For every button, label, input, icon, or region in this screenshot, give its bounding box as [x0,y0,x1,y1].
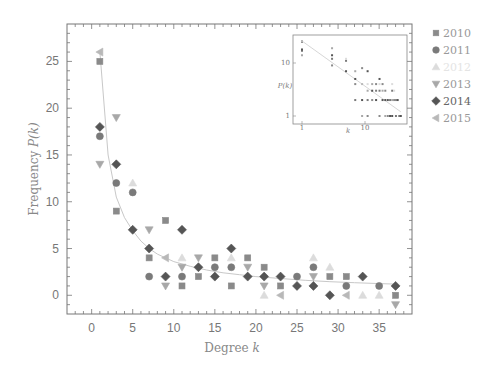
diamond-marker [391,281,400,290]
scatter-chart: 051015202530350510152025 201020112012201… [0,0,489,370]
circle-marker [228,264,235,271]
inset-point [382,90,384,92]
y-tick-label: 0 [52,288,59,302]
diamond-marker [194,263,203,272]
inset-point [379,115,381,117]
inset-x-label: k [346,127,350,135]
x-tick-label: 0 [88,321,95,335]
square-marker [261,264,267,270]
inset-point [384,115,386,117]
y-tick-label: 10 [46,195,60,209]
inset-point [367,90,369,92]
square-marker [278,283,284,289]
square-marker [195,274,201,280]
inset-point [395,115,397,117]
triangle-up-marker [359,291,367,298]
triangle-up-marker [375,291,383,298]
inset-ytick-1: 1 [286,112,290,120]
diamond-marker [309,281,318,290]
inset-point [367,83,369,85]
series-2012 [129,179,383,298]
inset-point [391,90,393,92]
inset-point [331,47,333,49]
inset-point [354,78,356,80]
x-tick-label: 30 [331,321,345,335]
square-marker [343,274,349,280]
diamond-marker [260,272,269,281]
triangle-down-marker [392,302,400,309]
inset-point [393,99,395,101]
inset-point [354,70,356,72]
x-tick-label: 10 [167,321,181,335]
circle-marker [179,273,186,280]
inset-point [391,83,393,85]
diamond-marker [112,160,121,169]
legend-label: 2012 [443,61,471,74]
inset-point [345,58,347,60]
triangle-up-marker [178,254,186,261]
triangle-up-marker [432,63,440,70]
circle-marker [129,189,136,196]
circle-marker [211,264,218,271]
inset-point [354,99,356,101]
legend-item-2013: 2013 [432,78,471,91]
diamond-marker [227,244,236,253]
inset-point [375,83,377,85]
triangle-left-marker [342,291,349,299]
square-marker [97,58,103,64]
square-marker [113,208,119,214]
inset-point [389,115,391,117]
triangle-left-marker [96,48,103,56]
x-tick-label: 20 [249,321,263,335]
y-tick-label: 25 [46,54,60,68]
diamond-marker [276,272,285,281]
circle-marker [294,273,301,280]
y-tick-label: 15 [46,148,60,162]
diamond-marker [128,225,137,234]
triangle-left-marker [432,114,439,122]
inset-point [384,90,386,92]
square-marker [245,255,251,261]
inset-point [382,83,384,85]
legend-label: 2011 [443,44,471,57]
y-tick-label: 5 [52,242,59,256]
diamond-marker [325,291,334,300]
legend: 201020112012201320142015 [432,27,471,125]
triangle-down-marker [432,81,440,88]
inset-point [331,64,333,66]
inset-point [367,70,369,72]
legend-item-2010: 2010 [433,27,471,40]
series-2011 [96,133,382,290]
square-marker [433,30,439,36]
inset-y-label: P(k) [277,82,293,90]
inset-point [379,90,381,92]
legend-label: 2014 [443,95,471,108]
inset-loglog-plot [293,35,407,124]
inset-point [387,115,389,117]
inset-point [391,99,393,101]
diamond-marker [293,281,302,290]
inset-point [379,78,381,80]
inset-point [345,70,347,72]
inset-point [389,99,391,101]
square-marker [212,255,218,261]
circle-marker [376,282,383,289]
legend-item-2011: 2011 [433,44,471,57]
triangle-down-marker [309,274,317,281]
diamond-marker [210,272,219,281]
inset-point [379,83,381,85]
x-tick-label: 5 [129,321,136,335]
legend-item-2014: 2014 [432,95,471,108]
square-marker [327,274,333,280]
diamond-marker [161,272,170,281]
inset-point [361,83,363,85]
inset-point [301,40,303,42]
x-tick-label: 35 [372,321,386,335]
inset-point [371,90,373,92]
inset-point [367,99,369,101]
inset-point [361,99,363,101]
inset-point [375,90,377,92]
inset-point [371,99,373,101]
triangle-up-marker [227,254,235,261]
legend-label: 2010 [443,27,471,40]
